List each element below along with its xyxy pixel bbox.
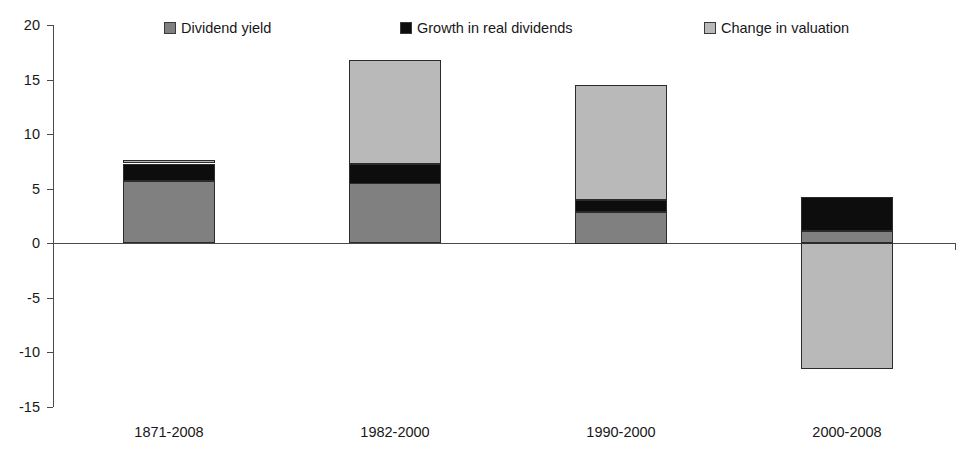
bar-segment-dividend-yield <box>123 181 215 243</box>
x-axis-category-label: 2000-2008 <box>767 425 927 440</box>
stacked-bar-chart: Dividend yield Growth in real dividends … <box>0 0 974 463</box>
y-axis-line <box>53 25 54 407</box>
bar-segment-growth-in-real-dividends <box>349 164 441 184</box>
y-axis-tick-label: 5 <box>0 182 40 197</box>
bar-segment-change-in-valuation <box>801 243 893 369</box>
y-axis-tick-label: 15 <box>0 73 40 88</box>
y-axis-tick-label: 20 <box>0 18 40 33</box>
y-axis-tick-label: 0 <box>0 236 40 251</box>
y-axis-tick-label: -10 <box>0 345 40 360</box>
bar-segment-change-in-valuation <box>123 160 215 163</box>
y-axis-tick <box>47 407 53 408</box>
y-axis-tick <box>47 25 53 26</box>
y-axis-tick <box>47 80 53 81</box>
y-axis-tick <box>47 134 53 135</box>
x-axis-category-label: 1871-2008 <box>89 425 249 440</box>
bar-segment-growth-in-real-dividends <box>575 200 667 212</box>
bar-segment-dividend-yield <box>349 183 441 243</box>
zero-baseline-endcap <box>955 243 956 250</box>
y-axis-tick-label: -5 <box>0 291 40 306</box>
bar-segment-change-in-valuation <box>575 85 667 200</box>
y-axis-tick <box>47 352 53 353</box>
y-axis-tick <box>47 189 53 190</box>
x-axis-category-label: 1982-2000 <box>315 425 475 440</box>
y-axis-tick-label: -15 <box>0 400 40 415</box>
y-axis-tick <box>47 298 53 299</box>
bar-segment-growth-in-real-dividends <box>123 164 215 181</box>
bar-segment-change-in-valuation <box>349 60 441 164</box>
bar-segment-dividend-yield <box>575 212 667 244</box>
plot-area: 20151050-5-10-151871-20081982-20001990-2… <box>0 0 974 463</box>
y-axis-tick-label: 10 <box>0 127 40 142</box>
bar-segment-dividend-yield <box>801 231 893 243</box>
x-axis-category-label: 1990-2000 <box>541 425 701 440</box>
bar-segment-growth-in-real-dividends <box>801 197 893 231</box>
